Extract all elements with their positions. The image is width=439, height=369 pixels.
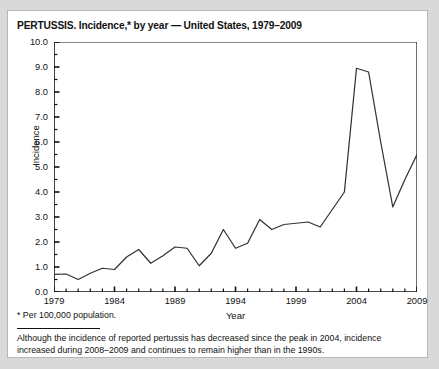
- footnote-divider: [17, 328, 100, 329]
- y-tick-label: 3.0: [35, 212, 48, 222]
- x-tick-label: 2009: [407, 296, 428, 306]
- chart-plot-area: 0.01.02.03.04.05.06.07.08.09.010.0 Incid…: [54, 42, 417, 292]
- footnote-asterisk: * Per 100,000 population.: [17, 310, 116, 320]
- y-axis-tick-labels: 0.01.02.03.04.05.06.07.08.09.010.0: [14, 42, 48, 292]
- y-axis-title: Incidence: [30, 125, 41, 166]
- y-tick-label: 8.0: [35, 87, 48, 97]
- chart-tick-marks: [54, 42, 417, 292]
- chart-axes: [54, 42, 417, 292]
- x-axis-tick-labels: 1979198419891994199920042009: [54, 296, 417, 310]
- y-tick-label: 10.0: [30, 37, 48, 47]
- x-tick-label: 1979: [44, 296, 65, 306]
- y-tick-label: 7.0: [35, 112, 48, 122]
- y-tick-label: 1.0: [35, 262, 48, 272]
- page-title: PERTUSSIS. Incidence,* by year — United …: [17, 20, 302, 31]
- x-tick-label: 1994: [225, 296, 246, 306]
- line-chart-svg: [54, 42, 417, 292]
- incidence-data-line: [54, 68, 417, 279]
- footnote-text: Although the incidence of reported pertu…: [17, 332, 417, 357]
- x-tick-label: 1989: [165, 296, 186, 306]
- y-tick-label: 2.0: [35, 237, 48, 247]
- x-tick-label: 1984: [104, 296, 125, 306]
- y-tick-label: 9.0: [35, 62, 48, 72]
- figure-card: PERTUSSIS. Incidence,* by year — United …: [7, 10, 428, 358]
- x-tick-label: 2004: [346, 296, 367, 306]
- y-tick-label: 4.0: [35, 187, 48, 197]
- x-tick-label: 1999: [286, 296, 307, 306]
